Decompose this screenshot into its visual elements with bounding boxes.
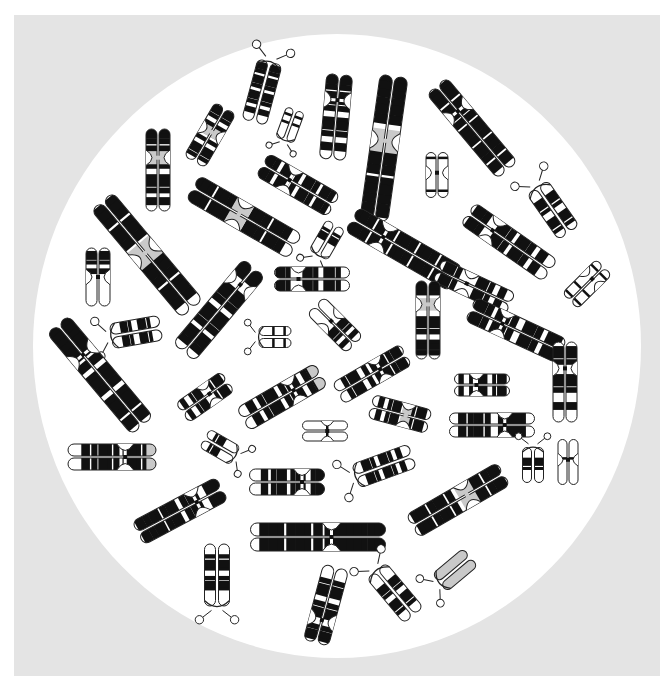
figure-canvas: [0, 0, 670, 685]
chromosome-spread-illustration: [0, 0, 670, 685]
